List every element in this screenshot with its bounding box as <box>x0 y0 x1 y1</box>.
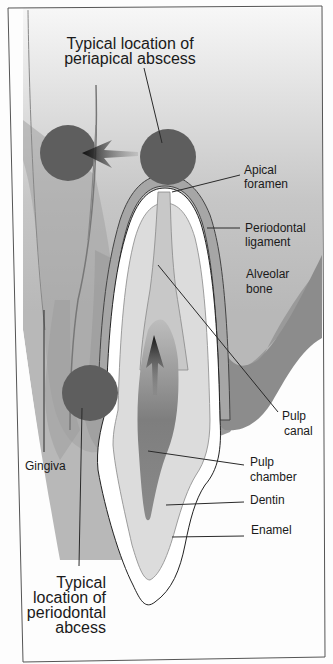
label-periodontal-ligament-1: Periodontal <box>245 221 306 235</box>
periapical-abscess <box>140 129 196 185</box>
periodontal-abscess <box>62 365 118 421</box>
label-periodontal-abscess-4: abcess <box>55 619 106 636</box>
label-pulp-chamber-1: Pulp <box>250 455 274 469</box>
tooth-diagram: Typical location of periapical abscess A… <box>0 0 333 664</box>
label-enamel: Enamel <box>251 523 292 537</box>
label-dentin: Dentin <box>250 493 285 507</box>
label-apical-foramen-2: foramen <box>244 177 288 191</box>
label-periodontal-ligament-2: ligament <box>245 235 291 249</box>
label-apical-foramen-1: Apical <box>244 163 277 177</box>
label-alveolar-bone-2: bone <box>246 282 273 296</box>
label-pulp-canal-1: Pulp <box>282 409 306 423</box>
label-alveolar-bone-1: Alveolar <box>246 267 289 281</box>
label-periapical-2: periapical abscess <box>64 50 196 67</box>
label-pulp-canal-2: canal <box>284 424 313 438</box>
label-pulp-chamber-2: chamber <box>250 470 297 484</box>
label-gingiva: Gingiva <box>25 459 66 473</box>
